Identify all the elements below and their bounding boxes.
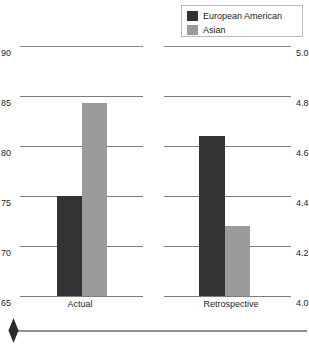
ytick-retrospective-4-8: 4.8 bbox=[296, 98, 309, 108]
ytick-actual-80: 80 bbox=[1, 148, 11, 158]
ytick-actual-90: 90 bbox=[1, 48, 11, 58]
ytick-actual-85: 85 bbox=[1, 98, 11, 108]
gridline-retrospective-4-8 bbox=[164, 96, 291, 97]
ytick-actual-65: 65 bbox=[1, 298, 11, 308]
bar-chart-figure: European American Asian 90 85 80 75 70 6… bbox=[0, 0, 309, 348]
gridline-actual-65 bbox=[20, 296, 143, 297]
plot-area-retrospective bbox=[164, 46, 291, 296]
ytick-retrospective-4-2: 4.2 bbox=[296, 248, 309, 258]
category-label-retrospective: Retrospective bbox=[186, 299, 276, 310]
ytick-actual-70: 70 bbox=[1, 248, 11, 258]
gridline-retrospective-4-0 bbox=[164, 296, 291, 297]
ytick-retrospective-4-4: 4.4 bbox=[296, 198, 309, 208]
bar-retrospective-asian bbox=[225, 226, 250, 296]
gridline-retrospective-5-0 bbox=[164, 46, 291, 47]
diamond-marker bbox=[7, 318, 20, 343]
gridline-retrospective-4-4 bbox=[164, 196, 291, 197]
bar-actual-asian bbox=[82, 103, 107, 296]
footer-rule bbox=[18, 330, 307, 332]
ytick-retrospective-4-6: 4.6 bbox=[296, 148, 309, 158]
gridline-retrospective-4-6 bbox=[164, 146, 291, 147]
plot-area-actual bbox=[20, 46, 143, 296]
ytick-retrospective-5-0: 5.0 bbox=[296, 48, 309, 58]
ytick-actual-75: 75 bbox=[1, 198, 11, 208]
panel-retrospective: 5.0 4.8 4.6 4.4 4.2 4.0 Retrospective bbox=[150, 0, 309, 348]
bar-retrospective-european-american bbox=[199, 136, 225, 296]
gridline-actual-90 bbox=[20, 46, 143, 47]
gridline-actual-85 bbox=[20, 96, 143, 97]
panel-actual: 90 85 80 75 70 65 Actual bbox=[0, 0, 155, 348]
ytick-retrospective-4-0: 4.0 bbox=[296, 298, 309, 308]
category-label-actual: Actual bbox=[45, 299, 115, 310]
bar-actual-european-american bbox=[57, 196, 82, 296]
